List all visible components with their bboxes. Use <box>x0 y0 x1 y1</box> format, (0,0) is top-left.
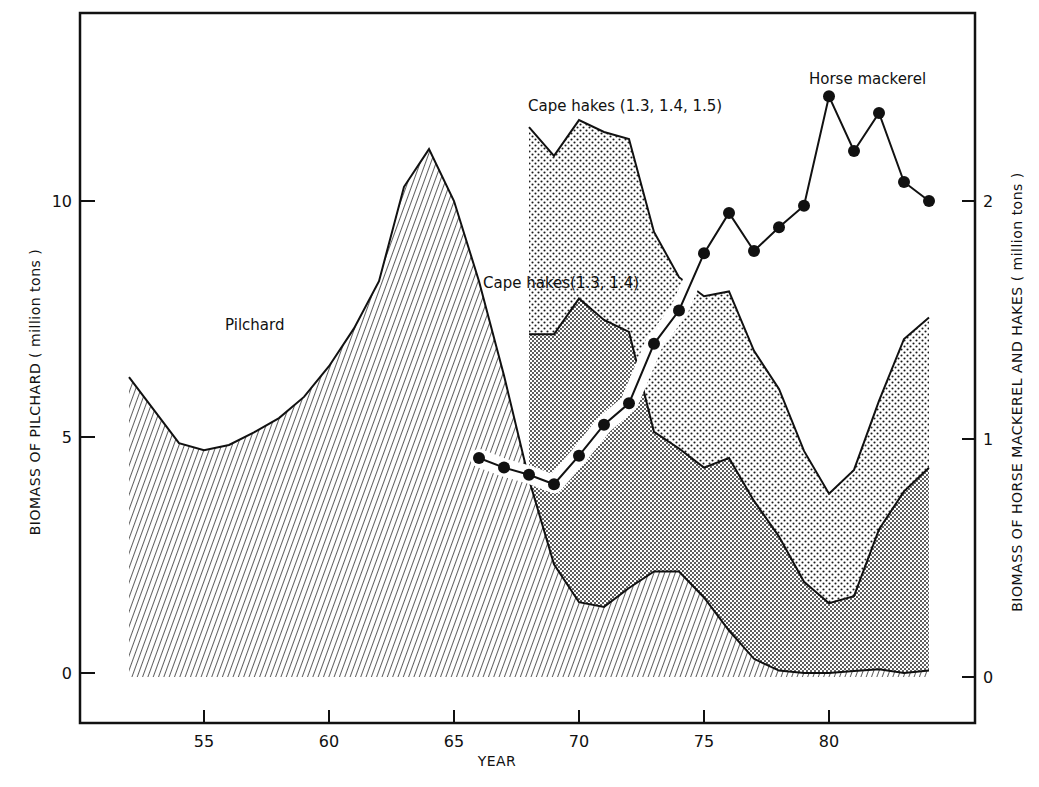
x-tick-label: 70 <box>569 732 589 751</box>
horse-mackerel-point <box>723 207 735 219</box>
x-tick-label: 65 <box>444 732 464 751</box>
plot-area <box>129 90 935 677</box>
horse-mackerel-point <box>873 107 885 119</box>
biomass-chart: 556065707580 0510 012 YEAR BIOMASS OF PI… <box>0 0 1039 787</box>
label-cape-hakes-134: Cape hakes(1.3, 1.4) <box>483 274 639 292</box>
horse-mackerel-point <box>498 462 510 474</box>
horse-mackerel-point <box>548 478 560 490</box>
x-tick-label: 55 <box>194 732 214 751</box>
horse-mackerel-point <box>923 195 935 207</box>
right-axis-title: BIOMASS OF HORSE MACKEREL AND HAKES ( mi… <box>1009 172 1025 612</box>
left-axis-title: BIOMASS OF PILCHARD ( million tons ) <box>27 249 43 536</box>
horse-mackerel-point <box>598 419 610 431</box>
horse-mackerel-point <box>523 469 535 481</box>
x-tick-label: 75 <box>694 732 714 751</box>
left-tick-label: 10 <box>52 192 72 211</box>
right-tick-label: 2 <box>983 192 993 211</box>
horse-mackerel-point <box>848 145 860 157</box>
horse-mackerel-point <box>473 452 485 464</box>
label-cape-hakes-135: Cape hakes (1.3, 1.4, 1.5) <box>528 97 722 115</box>
horse-mackerel-point <box>698 247 710 259</box>
x-tick-label: 60 <box>319 732 339 751</box>
x-axis-ticks: 556065707580 <box>194 710 839 751</box>
horse-mackerel-point <box>798 200 810 212</box>
left-tick-label: 0 <box>62 664 72 683</box>
horse-mackerel-point <box>748 245 760 257</box>
horse-mackerel-point <box>823 90 835 102</box>
x-tick-label: 80 <box>819 732 839 751</box>
right-tick-label: 0 <box>983 668 993 687</box>
x-axis-title: YEAR <box>477 753 517 769</box>
left-tick-label: 5 <box>62 428 72 447</box>
left-axis-ticks: 0510 <box>52 192 95 683</box>
right-tick-label: 1 <box>983 430 993 449</box>
horse-mackerel-point <box>623 397 635 409</box>
horse-mackerel-point <box>773 221 785 233</box>
horse-mackerel-point <box>673 304 685 316</box>
horse-mackerel-point <box>648 338 660 350</box>
horse-mackerel-point <box>573 450 585 462</box>
right-axis-ticks: 012 <box>962 192 993 687</box>
horse-mackerel-point <box>898 176 910 188</box>
label-pilchard: Pilchard <box>225 316 284 334</box>
label-horse-mackerel: Horse mackerel <box>809 70 926 88</box>
